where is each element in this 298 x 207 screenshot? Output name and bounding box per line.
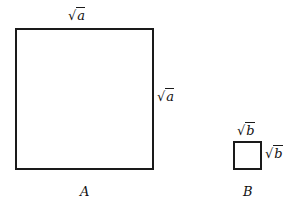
square-b-top-label: √b — [237, 123, 255, 138]
square-a — [15, 28, 154, 170]
square-b-caption: B — [243, 184, 253, 199]
square-a-side-label: √a — [157, 89, 174, 104]
variable-b: b — [273, 145, 282, 161]
variable-a: a — [76, 7, 85, 23]
square-b-side-label: √b — [265, 146, 283, 161]
square-a-top-label: √a — [68, 8, 85, 23]
square-a-caption: A — [80, 184, 89, 199]
variable-a: a — [165, 88, 174, 104]
square-b — [233, 141, 262, 170]
variable-b: b — [245, 122, 254, 138]
